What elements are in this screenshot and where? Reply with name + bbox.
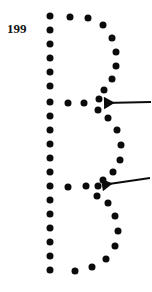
arrow-lower-junction-icon — [102, 178, 150, 185]
figure-panel: 199 — [0, 0, 152, 292]
annotation-arrow-layer — [0, 0, 152, 292]
arrow-upper-junction-icon — [104, 102, 151, 103]
